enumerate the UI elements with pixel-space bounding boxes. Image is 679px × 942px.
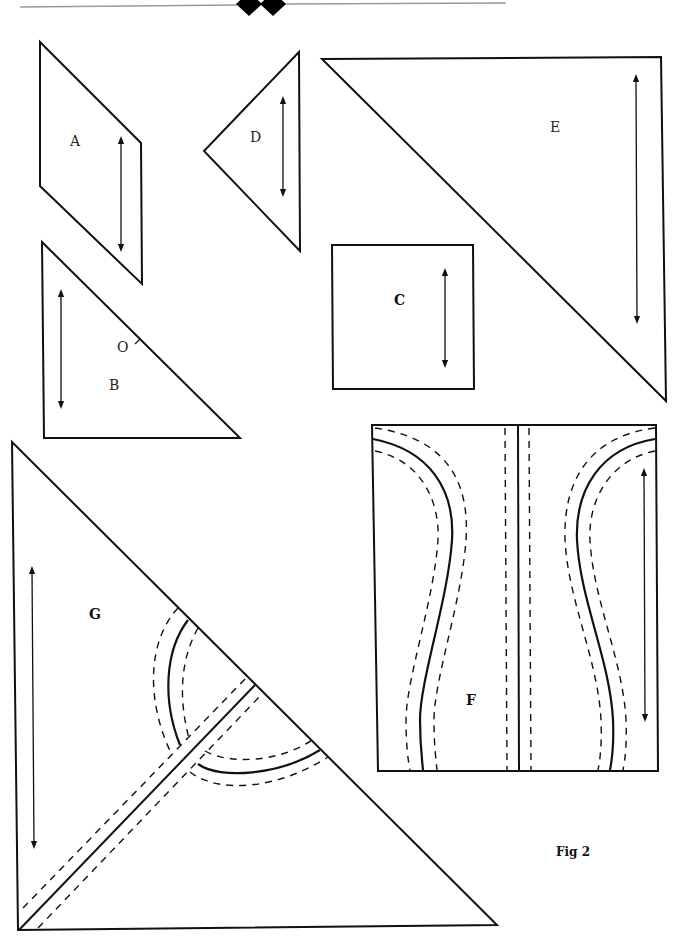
pattern-diagram: A O B D E C [0, 0, 679, 942]
pattern-piece-e: E [322, 57, 666, 401]
grainline-arrow-icon [636, 78, 637, 320]
piece-label-e: E [550, 119, 560, 135]
piece-label-d: D [250, 129, 261, 145]
pattern-piece-a: A [40, 42, 142, 284]
piece-label-b: B [109, 377, 119, 393]
pattern-piece-c: C [332, 245, 474, 389]
pattern-piece-f: F [372, 425, 658, 771]
piece-label-g: G [89, 606, 101, 622]
pattern-piece-d: D [204, 52, 300, 251]
piece-label-f: F [466, 692, 476, 708]
notch-mark [135, 339, 140, 344]
piece-label-c: C [394, 292, 405, 308]
piece-label-a: A [69, 133, 81, 149]
diamond-ornament-icon [236, 0, 286, 16]
piece-marker-o: O [117, 339, 128, 355]
figure-caption: Fig 2 [556, 845, 590, 859]
grainline-arrow-icon [644, 472, 645, 718]
header-divider [20, 0, 506, 16]
grainline-arrow-icon [32, 570, 34, 845]
